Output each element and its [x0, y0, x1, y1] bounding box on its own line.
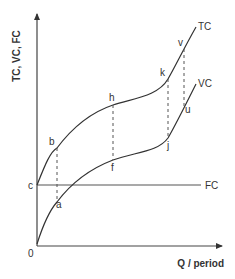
tc-curve — [37, 27, 196, 185]
vc-label: VC — [198, 78, 212, 89]
cost-curves-diagram: TC, VC, FC Q / period 0 TC VC FC c b h k… — [0, 0, 235, 279]
tc-label: TC — [198, 21, 211, 32]
point-a-label: a — [56, 199, 62, 210]
point-b-label: b — [49, 136, 55, 147]
x-axis-label: Q / period — [177, 258, 224, 269]
point-j-label: j — [166, 140, 169, 151]
point-u-label: u — [185, 104, 191, 115]
point-k-label: k — [160, 67, 166, 78]
point-f-label: f — [111, 162, 114, 173]
vc-curve — [37, 84, 196, 244]
point-v-label: v — [178, 37, 183, 48]
y-axis-label: TC, VC, FC — [11, 30, 22, 82]
point-h-label: h — [109, 92, 115, 103]
point-c-label: c — [28, 180, 33, 191]
fc-label: FC — [205, 180, 218, 191]
origin-label: 0 — [28, 248, 34, 259]
